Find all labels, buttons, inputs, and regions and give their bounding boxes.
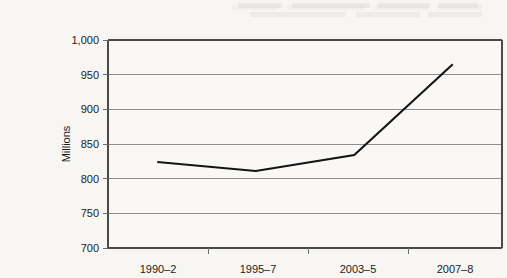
x-tick-label-1995-7: 1995–7 — [240, 263, 277, 275]
x-axis-tick-labels: 1990–2 1995–7 2003–5 2007–8 — [140, 263, 474, 275]
x-axis-tick-marks — [208, 248, 408, 254]
line-chart-figure: 1,000 950 900 850 800 750 700 1990–2 199… — [40, 16, 507, 278]
y-axis-tick-labels: 1,000 950 900 850 800 750 700 — [71, 34, 99, 254]
y-tick-label-850: 850 — [81, 138, 99, 150]
y-tick-label-950: 950 — [81, 69, 99, 81]
x-tick-label-2007-8: 2007–8 — [437, 263, 474, 275]
x-tick-label-2003-5: 2003–5 — [340, 263, 377, 275]
y-tick-label-900: 900 — [81, 103, 99, 115]
y-tick-label-1000: 1,000 — [71, 34, 99, 46]
y-tick-label-800: 800 — [81, 173, 99, 185]
chart-canvas: 1,000 950 900 850 800 750 700 1990–2 199… — [40, 16, 507, 278]
x-tick-label-1990-2: 1990–2 — [140, 263, 177, 275]
y-tick-label-700: 700 — [81, 242, 99, 254]
y-tick-label-750: 750 — [81, 207, 99, 219]
y-axis-tick-marks — [103, 40, 108, 248]
y-axis-title: Millions — [60, 125, 72, 162]
